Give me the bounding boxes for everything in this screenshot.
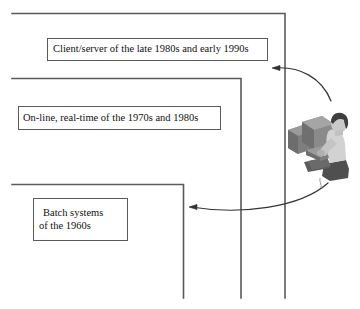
- label-line: of the 1960s: [39, 220, 127, 232]
- label-box-online-realtime: On-line, real-time of the 1970s and 1980…: [18, 106, 221, 130]
- arrow-to-client-server: [272, 65, 331, 101]
- label-line: Client/server of the late 1980s and earl…: [53, 43, 267, 55]
- label-line: On-line, real-time of the 1970s and 1980…: [23, 112, 220, 124]
- label-line: Batch systems: [39, 207, 127, 219]
- label-box-client-server: Client/server of the late 1980s and earl…: [47, 38, 268, 61]
- person-at-computer-icon: [286, 106, 358, 190]
- diagram-canvas: Client/server of the late 1980s and earl…: [0, 0, 360, 309]
- label-box-batch-systems: Batch systems of the 1960s: [33, 198, 128, 241]
